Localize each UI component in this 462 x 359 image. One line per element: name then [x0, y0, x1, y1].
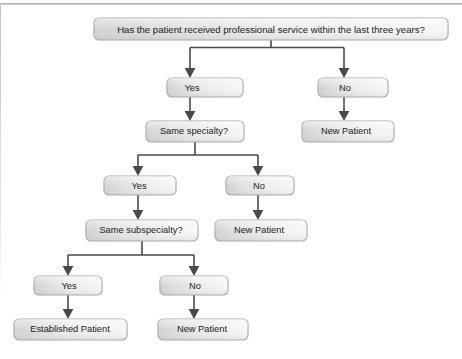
node-answer-yes-1[interactable]: Yes [167, 78, 243, 97]
edge-yes1-to-q2 [185, 97, 196, 121]
node-outcome-established-patient[interactable]: Established Patient [14, 319, 127, 340]
node-answer-no-2[interactable]: No [226, 176, 294, 195]
node-label: New Patient [177, 324, 228, 334]
node-question-professional-service[interactable]: Has the patient received professional se… [94, 18, 448, 40]
decision-flowchart-svg: Has the patient received professional se… [0, 0, 462, 359]
node-outcome-new-patient-3[interactable]: New Patient [158, 319, 248, 340]
node-answer-no-1[interactable]: No [318, 78, 388, 97]
node-label: No [339, 83, 351, 93]
node-label: Established Patient [30, 324, 110, 334]
node-label: Yes [184, 83, 200, 93]
node-label: No [189, 281, 201, 291]
node-label: Yes [61, 281, 77, 291]
edge-no2-to-newpatient [253, 195, 264, 220]
edge-no3-to-newpatient [189, 295, 200, 319]
node-label: No [253, 181, 265, 191]
node-label: Yes [131, 181, 147, 191]
node-question-same-specialty[interactable]: Same specialty? [146, 121, 244, 142]
node-answer-yes-2[interactable]: Yes [104, 176, 176, 195]
node-outcome-new-patient-2[interactable]: New Patient [215, 220, 307, 241]
edge-q2-split [133, 142, 264, 176]
node-label: Same specialty? [160, 126, 228, 136]
node-label: Same subspecialty? [99, 225, 182, 235]
node-label: New Patient [321, 126, 372, 136]
node-label: Has the patient received professional se… [117, 24, 425, 35]
edge-yes3-to-established [63, 295, 74, 319]
edge-yes2-to-q3 [133, 195, 144, 220]
edge-q3-split [63, 241, 200, 276]
edge-no1-to-newpatient [339, 97, 350, 121]
node-layer: Has the patient received professional se… [14, 18, 448, 340]
node-question-same-subspecialty[interactable]: Same subspecialty? [86, 220, 198, 241]
flowchart-canvas: Has the patient received professional se… [0, 0, 462, 359]
node-label: New Patient [234, 225, 285, 235]
node-outcome-new-patient-1[interactable]: New Patient [302, 121, 394, 142]
node-answer-no-3[interactable]: No [160, 276, 228, 295]
edge-q1-split [185, 40, 350, 78]
node-answer-yes-3[interactable]: Yes [34, 276, 102, 295]
